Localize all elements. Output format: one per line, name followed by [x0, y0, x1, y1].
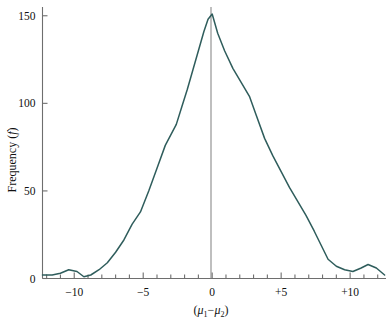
y-tick-label: 100 [18, 97, 36, 109]
x-tick-label: +10 [341, 286, 359, 298]
x-tick-label: 0 [209, 286, 215, 298]
x-axis-title-close: ) [224, 303, 228, 317]
x-axis-title-mu1: μ [197, 303, 204, 317]
x-tick-label: −5 [137, 286, 149, 298]
chart-background [0, 0, 388, 321]
x-axis-title-mu2: μ [213, 303, 220, 317]
y-tick-label: 50 [24, 185, 36, 197]
y-tick-label: 0 [30, 273, 36, 285]
y-axis-title-text: Frequency ( [5, 135, 19, 193]
y-axis-title: Frequency (f) [5, 128, 19, 193]
x-tick-label: +5 [275, 286, 287, 298]
frequency-distribution-figure: 050100150 −10−50+5+10 Frequency (f) (μ1−… [0, 0, 388, 321]
svg-text:Frequency (f): Frequency (f) [5, 128, 19, 193]
x-tick-label: −10 [65, 286, 83, 298]
y-axis-title-close: ) [5, 128, 19, 132]
chart-canvas: 050100150 −10−50+5+10 Frequency (f) (μ1−… [0, 0, 388, 321]
y-tick-label: 150 [18, 10, 36, 22]
